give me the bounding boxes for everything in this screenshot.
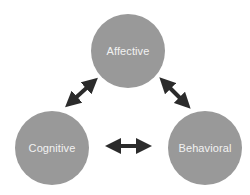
node-affective: Affective — [91, 14, 165, 88]
node-behavioral: Behavioral — [168, 111, 242, 185]
abc-model-diagram: Affective Cognitive Behavioral — [0, 0, 250, 195]
arrow-affective-behavioral — [165, 83, 185, 103]
node-label-affective: Affective — [107, 45, 150, 57]
node-cognitive: Cognitive — [15, 111, 89, 185]
node-label-behavioral: Behavioral — [179, 142, 232, 154]
node-label-cognitive: Cognitive — [29, 142, 76, 154]
arrow-affective-cognitive — [71, 83, 92, 102]
